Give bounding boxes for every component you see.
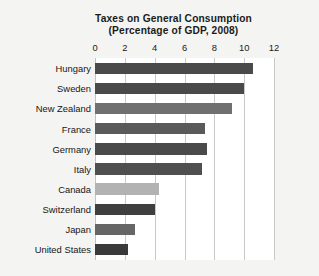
bar-row: New Zealand — [0, 100, 319, 120]
bar-switzerland — [95, 204, 155, 216]
category-label-new-zealand: New Zealand — [36, 103, 91, 114]
category-label-italy: Italy — [74, 164, 91, 175]
bar-france — [95, 123, 205, 135]
category-label-united-states: United States — [35, 244, 91, 255]
bar-row: Switzerland — [0, 201, 319, 221]
category-label-switzerland: Switzerland — [43, 204, 91, 215]
bar-germany — [95, 143, 207, 155]
bar-row: Sweden — [0, 80, 319, 100]
bar-canada — [95, 183, 159, 195]
category-label-germany: Germany — [52, 144, 91, 155]
bar-italy — [95, 163, 202, 175]
bar-rows: HungarySwedenNew ZealandFranceGermanyIta… — [0, 0, 319, 276]
category-label-sweden: Sweden — [57, 83, 91, 94]
bar-japan — [95, 224, 135, 236]
bar-sweden — [95, 83, 244, 95]
bar-row: Germany — [0, 140, 319, 160]
category-label-france: France — [62, 124, 91, 135]
bar-row: Italy — [0, 160, 319, 180]
bar-new-zealand — [95, 103, 232, 115]
bar-row: Japan — [0, 221, 319, 241]
bar-row: United States — [0, 241, 319, 261]
bar-row: France — [0, 120, 319, 140]
chart-figure: Taxes on General Consumption (Percentage… — [0, 0, 319, 276]
bar-row: Hungary — [0, 60, 319, 80]
category-label-japan: Japan — [65, 224, 91, 235]
bar-row: Canada — [0, 180, 319, 200]
bar-hungary — [95, 63, 253, 75]
category-label-hungary: Hungary — [56, 63, 91, 74]
category-label-canada: Canada — [58, 184, 91, 195]
bar-united-states — [95, 244, 128, 256]
